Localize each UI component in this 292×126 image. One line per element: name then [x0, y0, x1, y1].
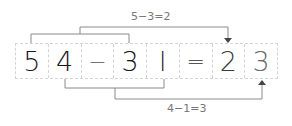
cell-digit-1: l [147, 44, 180, 78]
cell-equals: = [180, 44, 213, 78]
equation-grid: 5 4 − 3 l = 2 3 [15, 43, 278, 79]
cell-result-2: 2 [213, 44, 246, 78]
cell-result-3: 3 [245, 44, 277, 78]
arrow-up-icon [258, 80, 266, 85]
cell-digit-5: 5 [16, 44, 49, 78]
cell-digit-4: 4 [49, 44, 82, 78]
top-equation-label: 5−3=2 [131, 10, 170, 23]
bottom-equation-label: 4−1=3 [167, 102, 206, 115]
cell-minus: − [82, 44, 115, 78]
top-arrow-to-2 [80, 27, 228, 39]
top-bracket-5-3 [31, 34, 129, 43]
cell-digit-3: 3 [114, 44, 147, 78]
bottom-arrow-to-3 [115, 85, 262, 99]
bottom-bracket-4-1 [65, 79, 164, 88]
